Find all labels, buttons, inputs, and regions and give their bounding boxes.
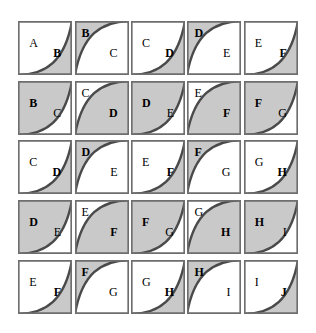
cell-box: FG [244,81,298,135]
cell-box: EF [187,81,241,135]
grid-cell: BC [74,20,128,77]
curve-grid-figure: ABBCCDDEEFBCCDDEEFFGCDDEEFFGGHDEEFFGGHHI… [0,0,316,333]
cell-curve-graphic [244,260,298,314]
cell-box: BC [18,81,72,135]
grid-cell: CD [18,139,72,196]
cell-box: CD [131,21,185,75]
cell-curve-graphic [244,81,298,135]
curve-grid: ABBCCDDEEFBCCDDEEFFGCDDEEFFGGHDEEFFGGHHI… [0,0,316,333]
grid-cell: BC [18,80,72,137]
grid-cell: IJ [244,258,298,315]
grid-cell: EF [187,80,241,137]
cell-curve-graphic [244,140,298,194]
cell-curve-graphic [131,81,185,135]
cell-curve-graphic [18,140,72,194]
cell-box: CD [18,140,72,194]
cell-curve-graphic [187,200,241,254]
cell-box: AB [18,21,72,75]
cell-box: HI [244,200,298,254]
cell-box: CD [75,81,129,135]
cell-curve-graphic [75,81,129,135]
cell-curve-graphic [18,200,72,254]
cell-curve-graphic [75,260,129,314]
grid-cell: FG [187,139,241,196]
cell-box: IJ [244,260,298,314]
grid-cell: AB [18,20,72,77]
cell-curve-graphic [18,81,72,135]
grid-cell: DE [18,199,72,256]
grid-cell: GH [187,199,241,256]
cell-curve-graphic [131,140,185,194]
cell-box: FG [131,200,185,254]
grid-cell: EF [131,139,185,196]
grid-cell: EF [18,258,72,315]
cell-curve-graphic [75,200,129,254]
cell-box: DE [18,200,72,254]
grid-cell: CD [74,80,128,137]
cell-box: EF [131,140,185,194]
grid-cell: GH [244,139,298,196]
cell-box: FG [187,140,241,194]
cell-curve-graphic [18,21,72,75]
cell-box: DE [131,81,185,135]
cell-curve-graphic [75,140,129,194]
grid-cell: CD [131,20,185,77]
cell-box: DE [75,140,129,194]
cell-box: FG [75,260,129,314]
cell-box: EF [18,260,72,314]
grid-cell: DE [74,139,128,196]
grid-cell: EF [74,199,128,256]
cell-box: EF [75,200,129,254]
cell-curve-graphic [244,200,298,254]
cell-box: EF [244,21,298,75]
cell-curve-graphic [187,81,241,135]
grid-cell: FG [131,199,185,256]
grid-cell: GH [131,258,185,315]
cell-box: HI [187,260,241,314]
cell-box: BC [75,21,129,75]
cell-curve-graphic [187,260,241,314]
cell-box: GH [244,140,298,194]
cell-box: GH [187,200,241,254]
cell-curve-graphic [75,21,129,75]
cell-curve-graphic [131,200,185,254]
grid-cell: DE [187,20,241,77]
grid-cell: FG [244,80,298,137]
cell-curve-graphic [187,21,241,75]
grid-cell: HI [187,258,241,315]
cell-box: DE [187,21,241,75]
grid-cell: EF [244,20,298,77]
grid-cell: DE [131,80,185,137]
grid-cell: HI [244,199,298,256]
cell-curve-graphic [131,21,185,75]
cell-curve-graphic [244,21,298,75]
cell-curve-graphic [187,140,241,194]
grid-cell: FG [74,258,128,315]
cell-curve-graphic [18,260,72,314]
cell-curve-graphic [131,260,185,314]
cell-box: GH [131,260,185,314]
